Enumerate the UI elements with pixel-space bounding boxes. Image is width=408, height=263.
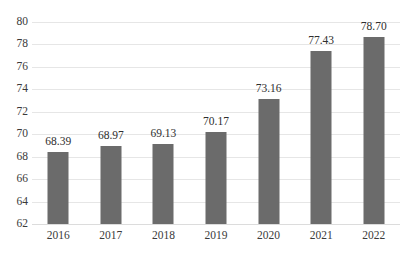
y-axis-tick-label: 70 xyxy=(4,128,28,140)
y-axis: 80787674727068666462 xyxy=(0,22,28,224)
y-axis-tick-label: 80 xyxy=(4,16,28,28)
bar-chart: 80787674727068666462 68.3968.9769.1370.1… xyxy=(0,0,408,263)
plot-area: 68.3968.9769.1370.1773.1677.4378.70 xyxy=(32,22,400,224)
bar-value-label: 73.16 xyxy=(256,83,282,95)
bar-slot: 77.43 xyxy=(295,22,348,224)
x-axis-tick-label: 2017 xyxy=(85,230,138,242)
bar[interactable] xyxy=(205,132,226,224)
bar-value-label: 68.97 xyxy=(98,130,124,142)
bar-slot: 69.13 xyxy=(137,22,190,224)
bar-value-label: 69.13 xyxy=(150,128,176,140)
bar-value-label: 78.70 xyxy=(361,21,387,33)
bar[interactable] xyxy=(258,99,279,224)
bar[interactable] xyxy=(311,51,332,224)
x-axis-tick-label: 2022 xyxy=(347,230,400,242)
x-axis-tick-label: 2020 xyxy=(242,230,295,242)
y-axis-tick-label: 76 xyxy=(4,61,28,73)
x-axis-tick-label: 2018 xyxy=(137,230,190,242)
bar-value-label: 70.17 xyxy=(203,116,229,128)
y-axis-tick-label: 64 xyxy=(4,196,28,208)
x-axis-tick-label: 2019 xyxy=(190,230,243,242)
bar-slot: 73.16 xyxy=(242,22,295,224)
bar-slot: 68.97 xyxy=(85,22,138,224)
x-axis-tick-label: 2021 xyxy=(295,230,348,242)
bar[interactable] xyxy=(48,152,69,224)
bar-slot: 70.17 xyxy=(190,22,243,224)
bar-slot: 68.39 xyxy=(32,22,85,224)
bar[interactable] xyxy=(153,144,174,224)
y-axis-tick-label: 74 xyxy=(4,83,28,95)
bar-slot: 78.70 xyxy=(347,22,400,224)
y-axis-tick-label: 78 xyxy=(4,38,28,50)
bar[interactable] xyxy=(363,37,384,224)
y-axis-tick-label: 66 xyxy=(4,173,28,185)
bar-value-label: 68.39 xyxy=(45,136,71,148)
y-axis-tick-label: 62 xyxy=(4,218,28,230)
axis-baseline xyxy=(32,224,400,225)
y-axis-tick-label: 68 xyxy=(4,151,28,163)
bar[interactable] xyxy=(100,146,121,224)
bar-value-label: 77.43 xyxy=(308,35,334,47)
y-axis-tick-label: 72 xyxy=(4,106,28,118)
x-axis-tick-label: 2016 xyxy=(32,230,85,242)
